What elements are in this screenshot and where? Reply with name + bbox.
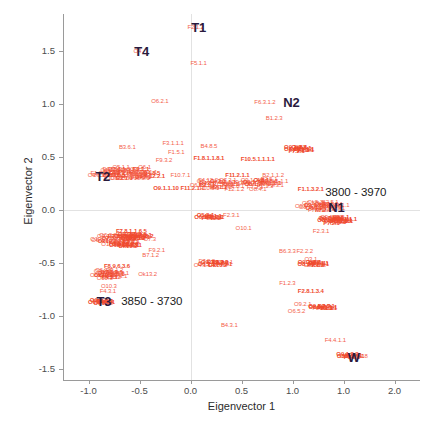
y-tick-mark <box>59 316 63 317</box>
data-point-label: O6.2.2 <box>95 267 112 273</box>
data-point-label: F4.4.1.1 <box>325 337 346 343</box>
x-tick-mark <box>395 380 396 384</box>
y-tick-mark <box>59 51 63 52</box>
x-tick-mark <box>242 380 243 384</box>
cluster-label-t2: T2 <box>95 169 110 184</box>
cluster-label-t3: T3 <box>96 294 111 309</box>
range-annotation-1: 3800 - 3970 <box>325 186 386 198</box>
data-point-label: O8.1.2 <box>244 181 261 187</box>
data-point-label: O6.2.1 <box>151 98 168 104</box>
y-axis-title: Eigenvector 2 <box>22 91 34 291</box>
data-point-label: Ok13.2 <box>138 271 157 277</box>
y-tick-label: 1.5 <box>25 45 55 56</box>
data-point-label: F2.2.2 <box>297 248 313 254</box>
scatter-plot: 1.51.00.50.0-0.5-1.0-1.5 -1.0-0.50.00.51… <box>0 0 428 427</box>
data-point-label: B4.8.5 <box>108 172 125 178</box>
data-point-label: Ok8.1 <box>306 259 322 265</box>
x-tick-mark <box>344 380 345 384</box>
data-point-label: F7.8.1 <box>135 232 151 238</box>
y-tick-mark <box>59 369 63 370</box>
data-point-label: B3.6.1 <box>119 144 136 150</box>
y-tick-label: -1.0 <box>25 310 55 321</box>
data-point-label: B1.2.3 <box>266 115 283 121</box>
data-point-label: F9.3.2 <box>156 157 172 163</box>
x-tick-mark <box>191 380 192 384</box>
data-point-label: F2.3.1 <box>264 180 280 186</box>
y-tick-label: -1.5 <box>25 363 55 374</box>
x-tick-label: 0.0 <box>171 385 211 396</box>
x-axis-title: Eigenvector 1 <box>63 400 420 412</box>
data-point-label: B7.1.2 <box>142 252 159 258</box>
y-tick-mark <box>59 104 63 105</box>
horizontal-zero-gridline <box>63 210 420 211</box>
data-point-label: B7.1.2 <box>117 241 134 247</box>
data-point-label: O10.1 <box>236 225 252 231</box>
data-point-label: F1.1.3.2.1 <box>298 186 324 192</box>
data-point-label: F2.8.1.3.4 <box>298 288 324 294</box>
data-point-label: B6.3.3 <box>279 248 296 254</box>
data-point-label: F6.3.1.2 <box>254 99 275 105</box>
y-axis-line <box>63 14 64 380</box>
data-point-label: F5.1.1 <box>190 60 206 66</box>
cluster-label-t4: T4 <box>134 44 149 59</box>
data-point-label: F2.3.1 <box>223 212 239 218</box>
data-point-label: F3.1.1.1 <box>163 140 184 146</box>
data-point-label: O9.1.2.2 <box>295 203 317 209</box>
data-point-label: O9.1.1.10 <box>153 185 178 191</box>
range-annotation-2: 3850 - 3730 <box>121 295 182 307</box>
y-tick-mark <box>59 263 63 264</box>
x-tick-label: -1.0 <box>69 385 109 396</box>
data-point-label: F1.8.1 <box>208 214 224 220</box>
data-point-label: B7.1.2 <box>207 259 224 265</box>
x-tick-mark <box>89 380 90 384</box>
data-point-label: F7.2.1 <box>288 148 304 154</box>
cluster-label-n1: N1 <box>328 200 344 215</box>
data-point-label: F4.12.2 <box>198 177 218 183</box>
data-point-label: F10.5.1.1.1.1 <box>241 156 275 162</box>
data-point-label: F10.7.1 <box>170 172 190 178</box>
data-point-label: O10.3 <box>90 236 106 242</box>
data-point-label: F2.3.1 <box>321 305 337 311</box>
data-point-label: F4.3.1 <box>101 274 117 280</box>
data-point-label: O6.5.2 <box>288 308 305 314</box>
data-point-label: F10.5.1 <box>130 175 150 181</box>
data-point-label: B2.5.1 <box>332 214 349 220</box>
y-tick-mark <box>59 157 63 158</box>
cluster-label-w: W <box>348 349 360 364</box>
x-tick-label: 1.0 <box>324 385 364 396</box>
x-tick-label: 2.0 <box>375 385 415 396</box>
data-point-label: F1.2.3 <box>279 280 295 286</box>
data-point-label: B4.3.1 <box>221 322 238 328</box>
cluster-label-n2: N2 <box>283 95 299 110</box>
data-point-label: F4.3.1 <box>100 288 116 294</box>
data-point-label: F2.3.1 <box>313 228 329 234</box>
x-tick-label: 1.0 <box>273 385 313 396</box>
vertical-zero-gridline <box>191 14 192 380</box>
y-tick-mark <box>59 210 63 211</box>
data-point-label: B4.8.5 <box>200 143 217 149</box>
x-tick-label: -0.5 <box>120 385 160 396</box>
data-point-label: F1.8.1.1.8.1 <box>193 155 224 161</box>
x-tick-mark <box>140 380 141 384</box>
x-tick-mark <box>293 380 294 384</box>
cluster-label-t1: T1 <box>191 19 206 34</box>
x-tick-label: 0.5 <box>222 385 262 396</box>
data-point-label: F1.5.1 <box>168 149 184 155</box>
data-point-label: B2.1.1 <box>210 184 227 190</box>
